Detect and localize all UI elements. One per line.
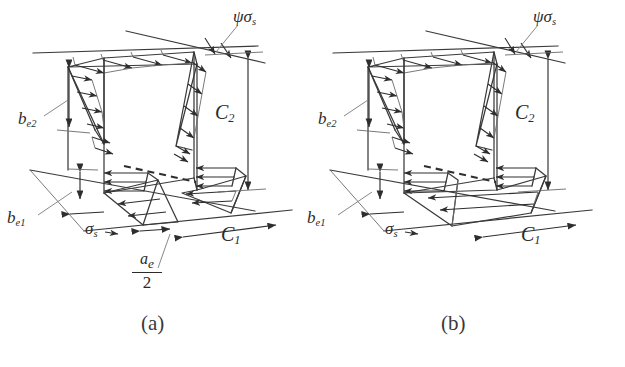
panel-a-right-wedge-arrows <box>180 62 206 138</box>
panel-a-lower-right-arrows <box>196 168 236 186</box>
panel-b-caption: (b) <box>441 311 466 336</box>
panel-b-sigmas-dimension <box>370 212 404 214</box>
panel-b-c2-label: C2 <box>515 102 535 122</box>
panel-a-be1-label: be1 <box>7 209 25 226</box>
panel-b-be1-label: be1 <box>307 209 325 226</box>
panel-b-be2-leader <box>344 100 368 116</box>
panel-b-sigmas-arrow <box>405 232 418 234</box>
panel-b-c1-label: C1 <box>521 224 541 244</box>
panel-a-ground-plane <box>30 170 292 231</box>
panel-a-psi-sigma-label: ψσs <box>233 8 256 25</box>
panel-b-drawing <box>330 25 592 237</box>
panel-a-right-wedge-grid <box>194 72 206 138</box>
panel-a-caption: (a) <box>141 311 164 336</box>
panel-b-right-wedge-grid <box>494 72 506 138</box>
panel-a-ae-over-2-label: ae 2 <box>132 251 162 292</box>
panel-b-psi-sigma-label: ψσs <box>533 8 556 25</box>
panel-b-dashed-line <box>424 166 496 182</box>
panel-a-c1-label: C1 <box>221 224 241 244</box>
panel-a-be2-leader <box>44 100 68 116</box>
panel-b-bottom-face <box>404 176 546 226</box>
panel-a-be2-label: be2 <box>18 110 36 127</box>
panel-a-ae2-dimension <box>140 229 170 231</box>
panel-a-be1-dimension <box>68 169 98 199</box>
panel-b-be1-dimension <box>368 169 398 199</box>
panel-a-sigmas-dimension <box>70 212 104 214</box>
panel-b-top-plane <box>333 31 565 63</box>
panel-a-sigmas-label: σs <box>85 220 98 237</box>
panel-a-drawing <box>30 25 292 268</box>
panel-a-psi-sigma-leader <box>216 25 238 52</box>
panel-a-sigmas-arrow <box>105 232 118 234</box>
panel-b-lower-right-arrows <box>496 168 536 186</box>
panel-b-psi-sigma-leader <box>516 25 538 52</box>
panel-b-prism <box>368 52 497 193</box>
panel-b-ground-plane <box>330 170 592 231</box>
panel-a-c2-label: C2 <box>215 102 235 122</box>
panel-a-prism <box>68 52 197 193</box>
panel-b-sigmas-label: σs <box>385 220 398 237</box>
panel-b-be2-label: be2 <box>318 110 336 127</box>
panel-b-right-wedge-arrows <box>480 62 506 138</box>
figure-canvas: ψσs be2 be1 C2 C1 σs ae 2 (a) ψσs be2 be… <box>0 0 625 367</box>
panel-a-top-plane <box>33 31 265 63</box>
diagram-vector-layer <box>0 0 625 367</box>
panel-a-dashed-line <box>124 166 196 182</box>
panel-b-lower-left-arrows <box>404 173 448 191</box>
